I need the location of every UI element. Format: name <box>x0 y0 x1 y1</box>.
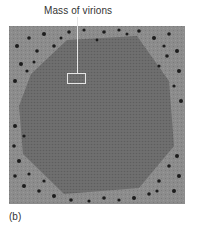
panel-label: (b) <box>9 211 21 222</box>
figure: Mass of virions <box>0 0 198 234</box>
callout-highlight-box <box>67 73 86 84</box>
micrograph-image <box>9 26 185 204</box>
callout-label: Mass of virions <box>44 5 112 16</box>
callout-leader-line <box>77 17 78 74</box>
